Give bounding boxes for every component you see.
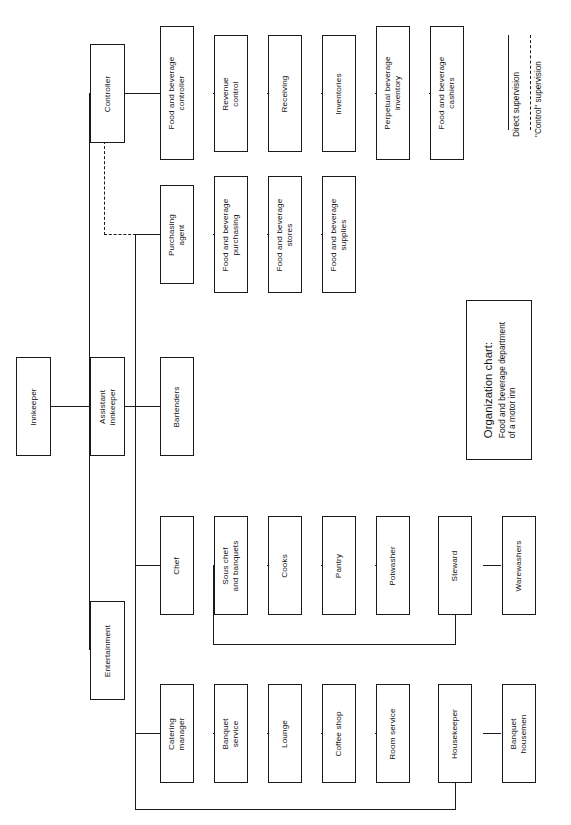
node-banquet-service-line2: service [231, 720, 240, 747]
node-banquet-service-label: Banquet service [221, 718, 242, 749]
connector-catering-housekeeper-drop [135, 733, 136, 810]
node-housekeeper-label: Housekeeper [450, 709, 460, 759]
node-purchasing-agent[interactable]: Purchasing agent [160, 185, 194, 284]
node-fb-controller-line2: controller [177, 76, 186, 111]
node-housekeeper[interactable]: Housekeeper [438, 684, 472, 783]
connector-control-dashed-vertical [104, 141, 105, 235]
chart-caption-title: Organization chart: [481, 322, 496, 438]
node-lounge[interactable]: Lounge [268, 684, 302, 783]
connector-trunk-chef [135, 565, 160, 566]
node-coffee-shop-label: Coffee shop [334, 711, 344, 756]
node-entertainment[interactable]: Entertainment [90, 601, 125, 700]
node-innkeeper-label: Innkeeper [28, 388, 38, 425]
connector-control-dashed-horizontal [104, 234, 136, 235]
node-banquet-service[interactable]: Banquet service [214, 684, 248, 783]
node-revenue-control[interactable]: Revenue control [214, 35, 248, 152]
node-perpetual-line2: inventory [393, 76, 402, 110]
connector-controller-fb-controller [125, 93, 160, 94]
connector-trunk-bartenders [135, 406, 160, 407]
node-fb-stores-line1: Food and beverage [275, 198, 284, 271]
node-catering-manager[interactable]: Catering manager [160, 684, 194, 783]
node-fb-supplies-line1: Food and beverage [329, 198, 338, 271]
node-fb-cashiers-label: Food and beverage cashiers [437, 57, 458, 130]
node-banquet-housemen[interactable]: Banquet housemen [502, 684, 536, 783]
node-assistant-innkeeper-label: Assistant innkeeper [97, 388, 118, 425]
node-assistant-innkeeper-line1: Assistant [97, 389, 106, 423]
node-banquet-housemen-label: Banquet housemen [509, 714, 530, 753]
node-chef[interactable]: Chef [160, 516, 194, 615]
connector-housekeeper-banquethousemen [483, 733, 501, 734]
node-perpetual-beverage-inventory[interactable]: Perpetual beverage inventory [376, 26, 410, 160]
node-sous-chef-line1: Sous chef [221, 547, 230, 584]
node-sous-chef-label: Sous chef and banquets [221, 540, 242, 591]
node-steward-label: Steward [450, 550, 460, 581]
node-assistant-innkeeper-line2: innkeeper [108, 388, 117, 425]
legend-control-supervision-label: "Control" supervision [534, 61, 543, 137]
node-inventories[interactable]: Inventories [322, 35, 356, 152]
node-revenue-control-line1: Revenue [221, 77, 230, 110]
node-fb-stores-label: Food and beverage stores [275, 198, 296, 271]
node-catering-manager-label: Catering manager [167, 717, 188, 750]
node-perpetual-beverage-inventory-label: Perpetual beverage inventory [383, 56, 404, 129]
node-fb-purchasing-line1: Food and beverage [221, 198, 230, 271]
node-lounge-label: Lounge [280, 720, 290, 748]
node-cooks-label: Cooks [280, 554, 290, 578]
node-bartenders[interactable]: Bartenders [160, 357, 194, 456]
node-banquet-housemen-line1: Banquet [509, 718, 518, 749]
node-purchasing-agent-line2: agent [177, 224, 186, 245]
node-chef-label: Chef [172, 557, 182, 575]
node-room-service[interactable]: Room service [376, 684, 410, 783]
node-catering-manager-line2: manager [177, 717, 186, 750]
node-room-service-label: Room service [388, 708, 398, 759]
node-fb-controller[interactable]: Food and beverage controller [160, 26, 194, 160]
node-sous-chef-and-banquets[interactable]: Sous chef and banquets [214, 516, 248, 615]
node-bartenders-label: Bartenders [172, 386, 182, 427]
legend-direct-supervision-label: Direct supervision [512, 72, 521, 137]
node-fb-controller-line1: Food and beverage [167, 57, 176, 130]
node-catering-manager-line1: Catering [167, 718, 176, 750]
node-innkeeper[interactable]: Innkeeper [16, 357, 51, 456]
node-fb-cashiers[interactable]: Food and beverage cashiers [430, 26, 464, 160]
node-pantry[interactable]: Pantry [322, 516, 356, 615]
chart-caption-subtitle-line2: of a motor inn [508, 322, 518, 438]
node-controller-label: Controller [102, 75, 112, 112]
node-purchasing-agent-line1: Purchasing [167, 214, 176, 256]
chart-caption-inner: Organization chart: Food and beverage de… [481, 322, 517, 438]
chart-caption-box: Organization chart: Food and beverage de… [466, 300, 532, 460]
node-fb-supplies-label: Food and beverage supplies [329, 198, 350, 271]
node-controller[interactable]: Controller [90, 44, 125, 143]
node-coffee-shop[interactable]: Coffee shop [322, 684, 356, 783]
node-warewashers[interactable]: Warewashers [502, 516, 536, 615]
org-chart-canvas: Innkeeper Assistant innkeeper Entertainm… [0, 0, 571, 825]
connector-trunk-catering-manager [135, 733, 160, 734]
node-purchasing-agent-label: Purchasing agent [167, 214, 188, 256]
node-steward[interactable]: Steward [438, 516, 472, 615]
node-sous-chef-line2: and banquets [231, 540, 240, 591]
node-potwasher-label: Potwasher [388, 546, 398, 586]
connector-assistant-trunk [135, 234, 136, 810]
connector-chef-steward-run [213, 644, 456, 645]
node-fb-supplies-line2: supplies [339, 219, 348, 250]
node-fb-stores-line2: stores [285, 223, 294, 246]
node-fb-cashiers-line2: cashiers [447, 77, 456, 108]
node-banquet-service-line1: Banquet [221, 718, 230, 749]
connector-catering-housekeeper-run [135, 809, 456, 810]
node-fb-supplies[interactable]: Food and beverage supplies [322, 176, 356, 293]
node-revenue-control-label: Revenue control [221, 77, 242, 110]
node-receiving[interactable]: Receiving [268, 35, 302, 152]
node-fb-stores[interactable]: Food and beverage stores [268, 176, 302, 293]
legend-control-supervision-line [530, 35, 531, 130]
node-warewashers-label: Warewashers [514, 540, 524, 591]
node-revenue-control-line2: control [231, 81, 240, 106]
node-inventories-label: Inventories [334, 73, 344, 114]
node-fb-purchasing[interactable]: Food and beverage purchasing [214, 176, 248, 293]
node-cooks[interactable]: Cooks [268, 516, 302, 615]
node-entertainment-label: Entertainment [102, 624, 112, 676]
node-fb-cashiers-line1: Food and beverage [437, 57, 446, 130]
node-fb-purchasing-label: Food and beverage purchasing [221, 198, 242, 271]
connector-innkeeper-assistant [50, 406, 90, 407]
node-assistant-innkeeper[interactable]: Assistant innkeeper [90, 357, 125, 456]
node-potwasher[interactable]: Potwasher [376, 516, 410, 615]
connector-steward-warewashers [483, 565, 501, 566]
node-pantry-label: Pantry [334, 553, 344, 577]
